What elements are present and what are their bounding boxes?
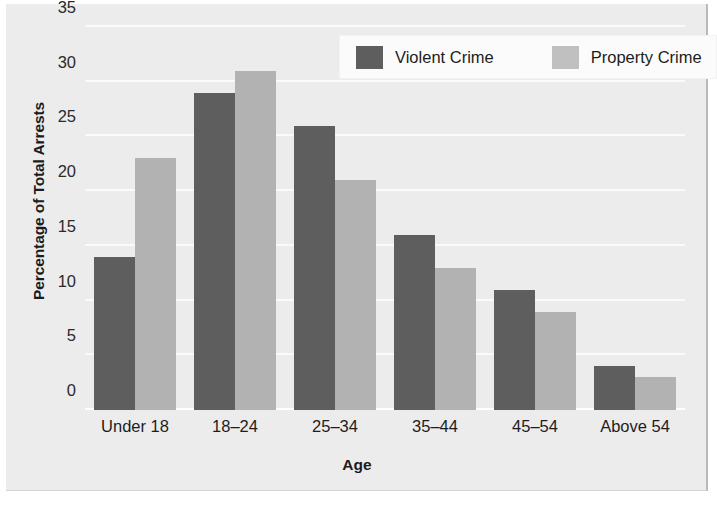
bar[interactable] (335, 180, 376, 410)
bar[interactable] (194, 93, 235, 410)
y-axis-tick-label: 20 (58, 162, 76, 181)
y-axis-tick-label: 10 (58, 271, 76, 290)
x-axis-tick-label: 18–24 (212, 417, 258, 436)
y-axis-title: Percentage of Total Arrests (30, 71, 48, 331)
x-axis-title: Age (6, 456, 708, 474)
bar[interactable] (535, 312, 576, 410)
legend: Violent CrimeProperty Crime (339, 35, 717, 79)
y-axis-tick-label: 25 (58, 107, 76, 126)
bar-group: Above 54 (585, 27, 685, 410)
x-axis-tick-label: Under 18 (101, 417, 169, 436)
x-axis-tick-label: 45–54 (512, 417, 558, 436)
bar[interactable] (94, 257, 135, 410)
legend-swatch-icon (356, 46, 383, 69)
y-axis-tick-label: 5 (67, 326, 76, 345)
bar[interactable] (635, 377, 676, 410)
legend-swatch-icon (552, 46, 579, 69)
bar-group: 45–54 (485, 27, 585, 410)
bar-groups: Under 1818–2425–3435–4445–54Above 54 (85, 27, 685, 410)
bar-group: Under 18 (85, 27, 185, 410)
legend-entry[interactable]: Violent Crime (356, 46, 494, 69)
y-axis-tick-label: 15 (58, 217, 76, 236)
bar-group: 35–44 (385, 27, 485, 410)
bar[interactable] (394, 235, 435, 410)
x-axis-tick-label: Above 54 (600, 417, 670, 436)
x-axis-tick-label: 35–44 (412, 417, 458, 436)
y-axis-tick-label: 0 (67, 381, 76, 400)
x-axis-tick-label: 25–34 (312, 417, 358, 436)
bar[interactable] (135, 158, 176, 410)
bar-group: 25–34 (285, 27, 385, 410)
plot-area: 05101520253035 Under 1818–2425–3435–4445… (85, 27, 685, 410)
bar[interactable] (435, 268, 476, 410)
y-axis-tick-label: 30 (58, 52, 76, 71)
legend-label: Property Crime (591, 48, 702, 67)
y-axis-tick-label: 35 (58, 0, 76, 17)
legend-label: Violent Crime (395, 48, 494, 67)
bar[interactable] (594, 366, 635, 410)
bar[interactable] (235, 71, 276, 410)
bar[interactable] (294, 126, 335, 411)
bar-group: 18–24 (185, 27, 285, 410)
legend-entry[interactable]: Property Crime (552, 46, 702, 69)
bar[interactable] (494, 290, 535, 410)
chart-panel: Percentage of Total Arrests Age 05101520… (6, 4, 708, 491)
